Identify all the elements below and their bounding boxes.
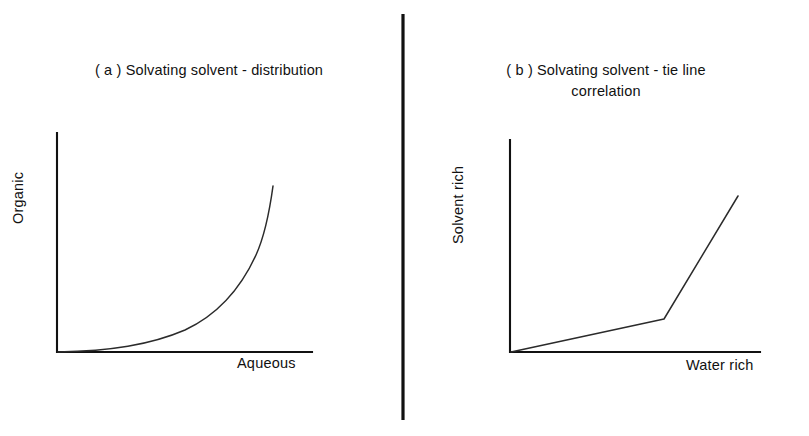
figure-vector-layer — [0, 0, 809, 436]
panel-b-tie-line-curve — [511, 196, 738, 352]
panel-a-axes — [57, 133, 312, 352]
panel-a-distribution-curve — [58, 186, 273, 352]
figure-root: ( a ) Solvating solvent - distribution O… — [0, 0, 809, 436]
panel-b-axes — [510, 140, 760, 352]
